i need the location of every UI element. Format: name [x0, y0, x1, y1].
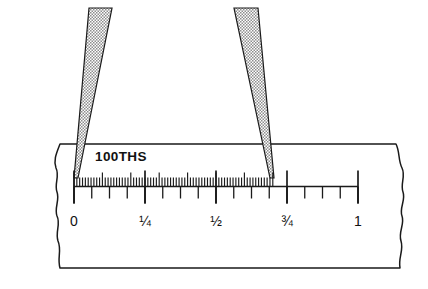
axis-tick-label: ½: [210, 213, 222, 229]
figure-canvas: 100THS 0¼½¾1: [0, 0, 428, 289]
axis-tick-label: 1: [354, 213, 362, 229]
scale-unit-label: 100THS: [95, 149, 147, 164]
axis-tick-label: ¼: [139, 213, 151, 229]
axis-tick-label: ¾: [281, 213, 293, 229]
axis-tick-label: 0: [70, 213, 78, 229]
measuring-scale-figure: 100THS 0¼½¾1: [0, 0, 428, 289]
